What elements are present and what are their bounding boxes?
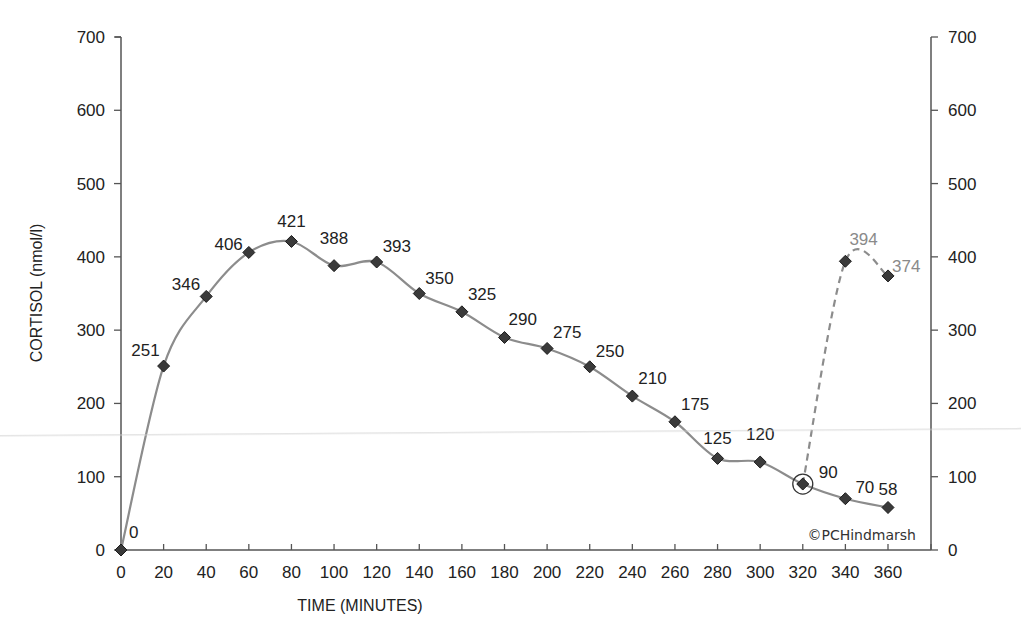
data-label: 175 xyxy=(681,395,709,414)
data-marker xyxy=(499,331,511,343)
x-tick-label: 200 xyxy=(533,563,561,582)
y2-tick-label: 200 xyxy=(948,394,976,413)
y2-tick-label: 300 xyxy=(948,321,976,340)
data-label: 0 xyxy=(129,523,138,542)
x-tick-label: 280 xyxy=(703,563,731,582)
data-label: 58 xyxy=(879,480,898,499)
x-tick-label: 60 xyxy=(239,563,258,582)
data-label: 90 xyxy=(819,463,838,482)
data-labels: 0251346406421388393350325290275250210175… xyxy=(129,212,920,542)
data-marker xyxy=(456,306,468,318)
y-tick-label: 500 xyxy=(77,175,105,194)
x-tick-label: 140 xyxy=(405,563,433,582)
data-marker xyxy=(797,478,809,490)
y2-tick-label: 0 xyxy=(948,541,957,560)
data-marker xyxy=(158,360,170,372)
x-tick-label: 240 xyxy=(618,563,646,582)
x-tick-label: 260 xyxy=(661,563,689,582)
data-label: 251 xyxy=(131,341,159,360)
data-label: 421 xyxy=(277,212,305,231)
data-label: 394 xyxy=(849,230,877,249)
data-label: 125 xyxy=(703,429,731,448)
data-marker xyxy=(371,256,383,268)
y2-tick-label: 100 xyxy=(948,468,976,487)
y-axis-title: CORTISOL (nmol/l) xyxy=(28,224,45,363)
data-label: 70 xyxy=(855,478,874,497)
x-tick-label: 20 xyxy=(154,563,173,582)
data-label: 290 xyxy=(509,310,537,329)
x-tick-label: 40 xyxy=(197,563,216,582)
x-tick-label: 360 xyxy=(874,563,902,582)
data-marker xyxy=(712,452,724,464)
y2-tick-label: 700 xyxy=(948,28,976,47)
data-marker xyxy=(115,544,127,556)
x-tick-label: 0 xyxy=(116,563,125,582)
y-tick-label: 0 xyxy=(96,541,105,560)
data-label: 210 xyxy=(638,369,666,388)
main-series-line xyxy=(121,241,888,550)
data-label: 275 xyxy=(553,323,581,342)
cortisol-chart: 0100200300400500600700010020030040050060… xyxy=(0,0,1021,635)
data-label: 388 xyxy=(320,229,348,248)
data-marker xyxy=(285,235,297,247)
copyright-text: ©PCHindmarsh xyxy=(807,527,916,543)
x-tick-label: 120 xyxy=(362,563,390,582)
y-tick-label: 600 xyxy=(77,101,105,120)
x-axis-title: TIME (MINUTES) xyxy=(297,597,422,614)
data-label: 346 xyxy=(172,275,200,294)
y2-tick-label: 600 xyxy=(948,101,976,120)
x-tick-label: 220 xyxy=(576,563,604,582)
data-marker xyxy=(328,260,340,272)
x-tick-label: 180 xyxy=(490,563,518,582)
data-marker xyxy=(584,361,596,373)
data-label: 374 xyxy=(892,257,920,276)
y-tick-label: 200 xyxy=(77,394,105,413)
x-tick-label: 340 xyxy=(831,563,859,582)
data-marker xyxy=(626,390,638,402)
data-label: 350 xyxy=(425,269,453,288)
series xyxy=(121,241,888,550)
data-marker xyxy=(413,288,425,300)
y-tick-label: 700 xyxy=(77,28,105,47)
y-tick-label: 400 xyxy=(77,248,105,267)
x-tick-label: 160 xyxy=(448,563,476,582)
data-marker xyxy=(541,342,553,354)
y-tick-label: 300 xyxy=(77,321,105,340)
data-marker xyxy=(882,501,894,513)
data-markers xyxy=(115,235,894,556)
x-tick-label: 320 xyxy=(789,563,817,582)
y-tick-label: 100 xyxy=(77,468,105,487)
data-label: 406 xyxy=(214,235,242,254)
y2-tick-label: 500 xyxy=(948,175,976,194)
data-marker xyxy=(754,456,766,468)
data-marker xyxy=(839,255,851,267)
x-tick-label: 300 xyxy=(746,563,774,582)
x-tick-label: 80 xyxy=(282,563,301,582)
y2-tick-label: 400 xyxy=(948,248,976,267)
data-label: 250 xyxy=(596,342,624,361)
data-label: 393 xyxy=(383,237,411,256)
data-label: 120 xyxy=(746,425,774,444)
data-marker xyxy=(839,493,851,505)
dashed-series-line xyxy=(803,249,888,484)
data-label: 325 xyxy=(468,285,496,304)
x-tick-label: 100 xyxy=(320,563,348,582)
